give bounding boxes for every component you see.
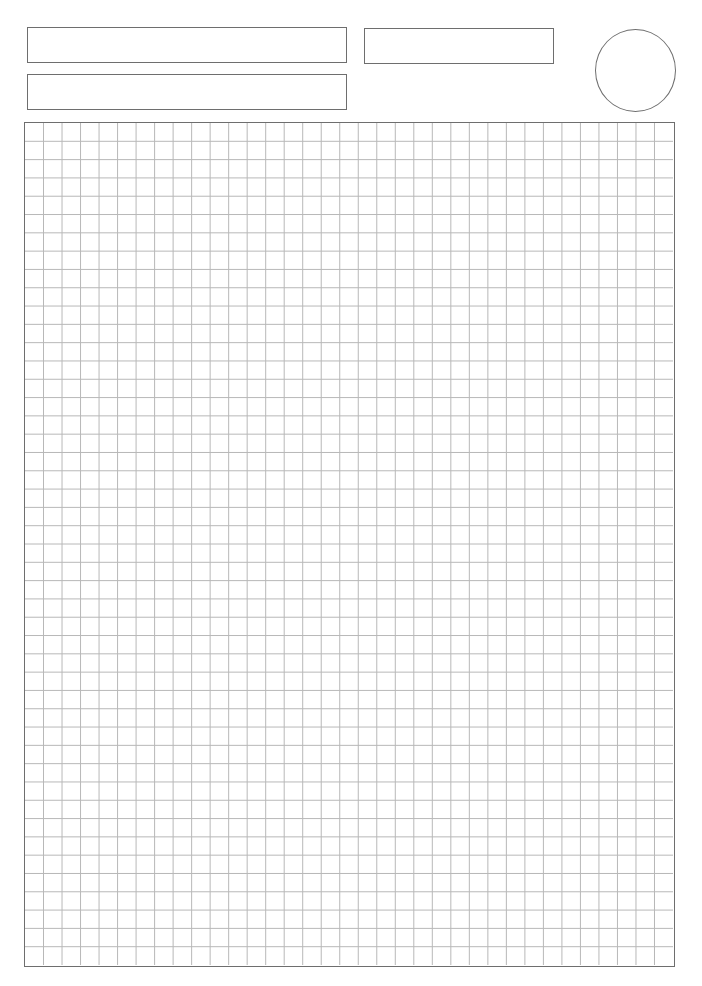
header-field-top-right[interactable]	[364, 28, 554, 64]
stamp-circle[interactable]	[595, 29, 676, 112]
header-field-bottom-left[interactable]	[27, 74, 347, 110]
grid-area[interactable]	[24, 122, 675, 967]
header-field-top-left[interactable]	[27, 27, 347, 63]
grid-lines	[25, 123, 676, 968]
